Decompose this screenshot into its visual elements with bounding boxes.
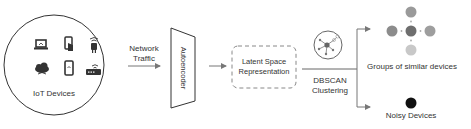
noisy-devices-label: Noisy Devices: [376, 111, 446, 121]
latent-space-label: Latent Space Representation: [232, 57, 296, 77]
network-traffic-line1: Network: [124, 44, 164, 54]
cluster-dot-center: [406, 26, 417, 37]
dbscan-label: DBSCAN Clustering: [308, 76, 352, 96]
latent-line2: Representation: [232, 67, 296, 77]
cluster-dot-left: [387, 26, 398, 37]
dbscan-line1: DBSCAN: [308, 76, 352, 86]
noisy-device-dot: [406, 98, 417, 109]
cloud-wifi-icon: [35, 63, 49, 75]
cluster-dot-right: [425, 26, 436, 37]
cluster-dot-top: [406, 7, 417, 18]
touch-phone-icon: [65, 37, 73, 51]
iot-devices-circle: [4, 15, 104, 115]
smartphone-icon: [65, 61, 73, 75]
dbscan-line2: Clustering: [308, 86, 352, 96]
similar-devices-cluster: [387, 7, 436, 56]
router-icon: [86, 65, 101, 75]
latent-line1: Latent Space: [232, 57, 296, 67]
network-traffic-label: Network Traffic: [124, 44, 164, 64]
iot-devices-label: IoT Devices: [24, 89, 84, 99]
groups-label: Groups of similar devices: [360, 62, 464, 72]
autoencoder-label: Autoencoder: [178, 38, 188, 98]
network-traffic-line2: Traffic: [124, 54, 164, 64]
cluster-dot-bottom: [406, 45, 417, 56]
laptop-icon: [34, 40, 48, 50]
network-cluster-icon: [314, 31, 342, 59]
